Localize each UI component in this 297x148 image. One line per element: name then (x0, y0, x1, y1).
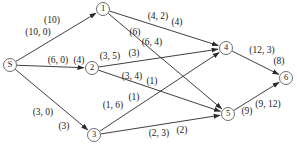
edge-label-S-2-1: (4) (73, 55, 84, 66)
edge-label-3-5-1: (2) (176, 125, 187, 136)
edge-label-1-4-1: (4) (171, 17, 182, 28)
edge-1-5 (108, 14, 222, 109)
edge-label-2-5-1: (1) (146, 76, 157, 87)
edge-label-1-4-0: (4, 2) (148, 11, 169, 22)
edge-label-2-4-1: (3) (128, 48, 139, 59)
edge-label-4-6-0: (12, 3) (249, 45, 274, 56)
node-label-6: 6 (284, 72, 288, 82)
edge-label-S-2-0: (6, 0) (48, 55, 69, 66)
node-1: 1 (97, 3, 110, 16)
edge-label-3-4-1: (1) (128, 92, 139, 103)
node-4: 4 (220, 42, 233, 55)
edge-label-4-6-1: (8) (273, 56, 284, 67)
edge-label-1-5-0: (6) (129, 27, 140, 38)
edge-S-3 (15, 69, 87, 129)
edge-labels-layer: (10)(10, 0)(6, 0)(4)(3, 0)(3)(4, 2)(4)(6… (25, 11, 284, 139)
edge-S-2 (17, 65, 84, 67)
node-label-S: S (8, 59, 13, 69)
edge-label-2-4-0: (3, 5) (100, 51, 121, 62)
edge-label-S-3-0: (3, 0) (33, 107, 54, 118)
node-S: S (4, 59, 17, 72)
node-label-2: 2 (90, 62, 94, 72)
edge-label-S-1-0: (10) (44, 15, 60, 26)
edge-label-3-4-0: (1, 6) (103, 100, 124, 111)
graph-canvas: (10)(10, 0)(6, 0)(4)(3, 0)(3)(4, 2)(4)(6… (0, 0, 297, 148)
edge-label-5-6-0: (9) (241, 106, 252, 117)
edge-label-3-5-0: (2, 3) (149, 128, 170, 139)
edge-label-2-5-0: (3, 4) (122, 71, 143, 82)
edge-label-1-5-1: (6, 4) (142, 37, 163, 48)
node-label-1: 1 (101, 3, 105, 13)
node-6: 6 (280, 72, 293, 85)
edges-layer (15, 11, 279, 134)
node-label-3: 3 (92, 129, 96, 139)
node-2: 2 (86, 62, 99, 75)
edge-label-S-3-1: (3) (58, 121, 69, 132)
edge-label-5-6-1: (9, 12) (255, 99, 280, 110)
flow-network-diagram: (10)(10, 0)(6, 0)(4)(3, 0)(3)(4, 2)(4)(6… (0, 0, 297, 148)
edge-label-S-1-1: (10, 0) (25, 27, 50, 38)
node-5: 5 (222, 108, 235, 121)
node-3: 3 (88, 129, 101, 142)
node-label-5: 5 (226, 108, 230, 118)
